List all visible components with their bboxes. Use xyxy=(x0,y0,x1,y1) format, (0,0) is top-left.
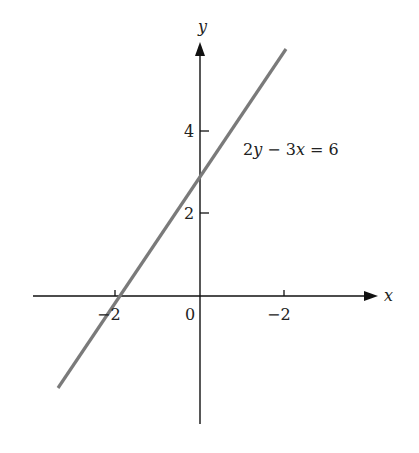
x-axis-arrow-icon xyxy=(364,291,378,301)
y-axis-arrow-icon xyxy=(195,42,205,56)
y-axis-label: y xyxy=(197,17,208,36)
x-tick-label-pos: −2 xyxy=(267,305,291,324)
y-tick-label-2: 2 xyxy=(184,204,194,223)
x-tick-label-neg: −2 xyxy=(97,305,121,324)
equation-label: 2y − 3x = 6 xyxy=(243,140,339,159)
y-tick-label-4: 4 xyxy=(184,122,194,141)
x-axis-label: x xyxy=(384,286,393,305)
coordinate-plot: y x 0 −2 −2 4 2 2y − 3x = 6 xyxy=(0,0,419,453)
line-2y-3x-6 xyxy=(58,49,286,388)
origin-label: 0 xyxy=(185,305,195,324)
